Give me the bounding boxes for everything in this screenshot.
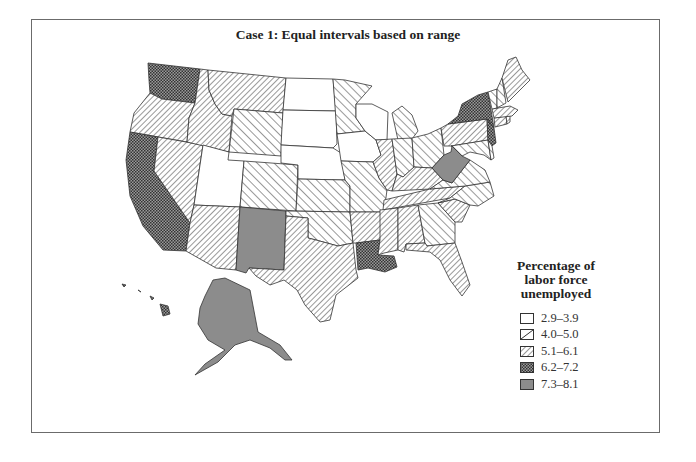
state-nm[interactable] — [236, 207, 286, 273]
state-ut[interactable] — [194, 145, 244, 207]
state-ak[interactable] — [195, 278, 292, 375]
legend-item-blank: 2.9–3.9 — [520, 310, 606, 326]
back-hatch-swatch-icon — [520, 346, 534, 357]
state-nd[interactable] — [283, 78, 336, 111]
map-legend: Percentage of labor force unemployed 2.9… — [506, 259, 606, 393]
legend-item-forward-hatch: 4.0–5.0 — [520, 327, 606, 343]
state-co[interactable] — [240, 161, 298, 211]
solid-gray-swatch-icon — [520, 379, 534, 390]
crosshatch-swatch-icon — [520, 362, 534, 373]
state-sd[interactable] — [281, 110, 337, 148]
legend-title: Percentage of labor force unemployed — [506, 259, 606, 301]
legend-item-back-hatch: 5.1–6.1 — [520, 343, 606, 359]
legend-item-crosshatch: 6.2–7.2 — [520, 360, 606, 376]
legend-item-solid-gray: 7.3–8.1 — [520, 376, 606, 392]
state-ks[interactable] — [296, 179, 350, 212]
state-me[interactable] — [502, 57, 530, 102]
forward-hatch-swatch-icon — [520, 329, 534, 340]
state-ri[interactable] — [506, 116, 510, 124]
state-mi[interactable] — [392, 106, 418, 140]
blank-swatch-icon — [520, 313, 534, 324]
us-choropleth-map — [0, 0, 696, 462]
state-ar[interactable] — [350, 212, 384, 243]
state-az[interactable] — [186, 205, 240, 270]
legend-items: 2.9–3.9 4.0–5.0 5.1–6.1 6.2–7.2 7.3–8.1 — [506, 310, 606, 392]
state-wy[interactable] — [229, 109, 283, 156]
state-hi[interactable] — [122, 284, 170, 316]
state-fl[interactable] — [406, 243, 470, 296]
state-ms[interactable] — [378, 208, 398, 255]
state-mt[interactable] — [208, 70, 286, 116]
